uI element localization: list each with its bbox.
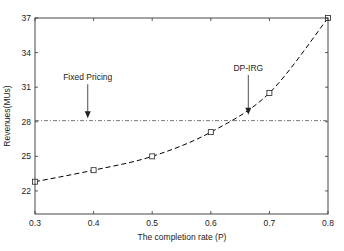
x-tick-label: 0.5 <box>146 218 158 228</box>
y-axis-label: Revenues(MUs) <box>2 85 12 147</box>
y-tick-label: 31 <box>22 82 32 92</box>
y-tick-label: 25 <box>22 151 32 161</box>
y-tick-label: 37 <box>22 13 32 23</box>
data-point-marker <box>91 168 96 173</box>
plot-frame <box>35 18 328 214</box>
x-tick-label: 0.6 <box>205 218 217 228</box>
annotation-label: Fixed Pricing <box>63 72 112 82</box>
annotation-label: DP-IRG <box>233 63 263 73</box>
series-line <box>35 18 328 182</box>
y-tick-label: 22 <box>22 186 32 196</box>
x-tick-label: 0.3 <box>29 218 41 228</box>
data-point-marker <box>150 154 155 159</box>
plot-lines <box>33 16 331 185</box>
y-tick-label: 28 <box>22 117 32 127</box>
x-tick-label: 0.8 <box>322 218 334 228</box>
x-axis-label: The completion rate (P) <box>138 232 227 242</box>
data-point-marker <box>208 130 213 135</box>
chart: 0.30.40.50.60.70.8222528313437Fixed Pric… <box>0 0 344 251</box>
data-point-marker <box>267 90 272 95</box>
y-tick-label: 34 <box>22 48 32 58</box>
x-tick-label: 0.4 <box>88 218 100 228</box>
arrow-down-icon <box>85 111 91 118</box>
x-tick-label: 0.7 <box>263 218 275 228</box>
